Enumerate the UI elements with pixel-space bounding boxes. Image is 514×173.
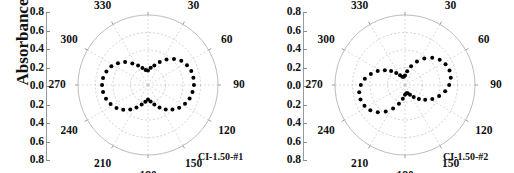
angle-label-30: 30 bbox=[188, 0, 200, 12]
data-point bbox=[405, 69, 409, 73]
data-point bbox=[172, 57, 176, 61]
grid-spoke bbox=[148, 24, 183, 85]
data-point bbox=[359, 83, 363, 87]
angle-tick bbox=[368, 146, 370, 149]
angle-label-240: 240 bbox=[318, 125, 335, 137]
polar-panel-1: 0.80.60.40.20.00.20.40.60.8 CI-1.50-#1 0… bbox=[0, 0, 257, 173]
data-point bbox=[447, 83, 451, 87]
radial-tick-label: 0.0 bbox=[4, 80, 44, 92]
angle-tick bbox=[466, 120, 469, 122]
data-point bbox=[397, 102, 401, 106]
data-point bbox=[128, 107, 132, 111]
angle-tick bbox=[183, 146, 185, 149]
data-point bbox=[403, 93, 407, 97]
data-point bbox=[449, 76, 453, 80]
angle-label-330: 330 bbox=[351, 0, 368, 12]
radial-tick-mark bbox=[303, 160, 307, 161]
angle-tick bbox=[111, 22, 113, 25]
data-point bbox=[130, 61, 134, 65]
radial-tick-label: 0.4 bbox=[261, 43, 301, 55]
data-point bbox=[136, 64, 140, 68]
data-point bbox=[358, 97, 362, 101]
angle-tick bbox=[85, 48, 88, 50]
radial-tick-label: 0.0 bbox=[261, 80, 301, 92]
data-point bbox=[101, 76, 105, 80]
data-point bbox=[391, 106, 395, 110]
data-point bbox=[123, 60, 127, 64]
angle-tick bbox=[342, 120, 345, 122]
data-point bbox=[191, 90, 195, 94]
data-point bbox=[412, 95, 416, 99]
angle-label-270: 270 bbox=[305, 79, 322, 91]
angle-tick bbox=[440, 22, 442, 25]
angle-label-90: 90 bbox=[490, 79, 502, 91]
data-point bbox=[164, 107, 168, 111]
data-point bbox=[140, 103, 144, 107]
radial-tick-label: 0.8 bbox=[4, 154, 44, 166]
data-point bbox=[444, 62, 448, 66]
radial-tick-mark bbox=[46, 105, 50, 106]
data-point bbox=[165, 58, 169, 62]
angle-label-330: 330 bbox=[94, 0, 111, 12]
data-point bbox=[369, 72, 373, 76]
data-point bbox=[170, 107, 174, 111]
data-point bbox=[362, 104, 366, 108]
angle-tick bbox=[183, 22, 185, 25]
radial-tick-label: 0.8 bbox=[261, 6, 301, 18]
angle-label-90: 90 bbox=[233, 79, 245, 91]
radial-tick-label: 0.2 bbox=[4, 99, 44, 111]
angle-label-180: 180 bbox=[396, 170, 413, 173]
data-point bbox=[179, 59, 183, 63]
angle-label-270: 270 bbox=[48, 79, 65, 91]
angle-label-180: 180 bbox=[139, 170, 156, 173]
radial-tick-mark bbox=[303, 68, 307, 69]
data-point bbox=[104, 97, 108, 101]
data-point bbox=[409, 64, 413, 68]
radial-tick-mark bbox=[303, 31, 307, 32]
radial-tick-label: 0.6 bbox=[4, 25, 44, 37]
radial-tick-label: 0.6 bbox=[261, 136, 301, 148]
data-point bbox=[423, 98, 427, 102]
data-point bbox=[415, 60, 419, 64]
data-point bbox=[430, 56, 434, 60]
radial-tick-mark bbox=[303, 142, 307, 143]
angle-tick bbox=[85, 120, 88, 122]
angle-tick bbox=[368, 22, 370, 25]
data-point bbox=[149, 66, 153, 70]
radial-tick-label: 0.8 bbox=[261, 154, 301, 166]
grid-spoke bbox=[113, 24, 148, 85]
data-point bbox=[177, 106, 181, 110]
data-point bbox=[116, 61, 120, 65]
radial-tick-mark bbox=[303, 12, 307, 13]
data-point bbox=[384, 110, 388, 114]
data-point bbox=[417, 97, 421, 101]
angle-label-120: 120 bbox=[218, 125, 235, 137]
angle-label-150: 150 bbox=[185, 158, 202, 170]
data-point bbox=[363, 77, 367, 81]
data-point bbox=[443, 89, 447, 93]
radial-tick-mark bbox=[46, 142, 50, 143]
radial-tick-label: 0.6 bbox=[261, 25, 301, 37]
radial-tick-mark bbox=[46, 68, 50, 69]
radial-tick-label: 0.4 bbox=[261, 117, 301, 129]
radial-tick-mark bbox=[46, 160, 50, 161]
data-point bbox=[152, 63, 156, 67]
data-point bbox=[115, 106, 119, 110]
angle-tick bbox=[209, 48, 212, 50]
data-point bbox=[402, 75, 406, 79]
data-point bbox=[152, 103, 156, 107]
angle-label-60: 60 bbox=[478, 34, 490, 46]
data-point bbox=[185, 63, 189, 67]
data-point bbox=[437, 94, 441, 98]
radial-tick-mark bbox=[46, 31, 50, 32]
angle-tick bbox=[466, 48, 469, 50]
radial-tick-label: 0.2 bbox=[4, 62, 44, 74]
radial-tick-labels-2: 0.80.60.40.20.00.20.40.60.8 bbox=[257, 0, 297, 173]
grid-spoke bbox=[87, 85, 148, 120]
data-point bbox=[368, 108, 372, 112]
angle-label-150: 150 bbox=[442, 158, 459, 170]
data-point bbox=[191, 76, 195, 80]
radial-tick-mark bbox=[303, 123, 307, 124]
data-point bbox=[104, 69, 108, 73]
data-point bbox=[121, 108, 125, 112]
